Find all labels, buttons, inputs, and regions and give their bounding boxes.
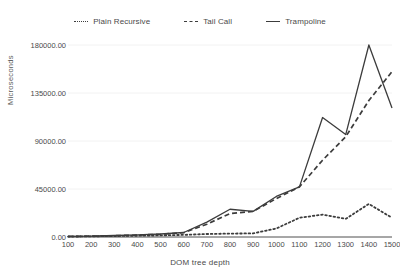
series-line-tail-call	[68, 72, 392, 237]
plot-area	[0, 0, 400, 275]
line-chart: Plain Recursive Tail Call Trampoline Mic…	[0, 0, 400, 275]
